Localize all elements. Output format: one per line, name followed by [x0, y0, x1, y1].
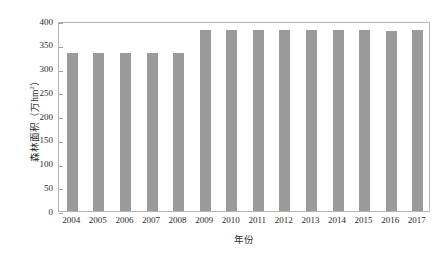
x-axis-tick-labels: 2004200520062007200820092010201120122013…: [58, 215, 430, 229]
y-axis-tick-label: 350: [29, 41, 53, 50]
y-axis-tick-label: 200: [29, 113, 53, 122]
y-axis-tick-label: 400: [29, 18, 53, 27]
y-axis-tick-mark: [59, 213, 63, 214]
y-axis-tick-mark: [59, 94, 63, 95]
y-axis-tick-labels: 400350300250200150100500: [29, 0, 53, 257]
bar: [67, 53, 78, 211]
bar: [386, 31, 397, 212]
x-axis-tick-mark: [391, 207, 392, 211]
bar: [333, 30, 344, 211]
bar: [120, 53, 131, 211]
y-axis-tick-label: 0: [29, 208, 53, 217]
y-axis-tick-mark: [59, 23, 63, 24]
y-axis-tick-mark: [59, 118, 63, 119]
x-axis-tick-mark: [99, 207, 100, 211]
x-axis-title: 年份: [58, 232, 430, 246]
y-axis-tick-mark: [59, 189, 63, 190]
bar: [359, 30, 370, 211]
bar: [173, 53, 184, 211]
x-axis-tick-mark: [125, 207, 126, 211]
y-axis-tick-label: 150: [29, 136, 53, 145]
x-axis-tick-mark: [205, 207, 206, 211]
y-axis-tick-label: 300: [29, 65, 53, 74]
bar: [412, 30, 423, 211]
y-axis-tick-label: 50: [29, 184, 53, 193]
bar: [200, 30, 211, 211]
y-axis-tick-label: 250: [29, 89, 53, 98]
x-axis-tick-mark: [179, 207, 180, 211]
x-axis-tick-mark: [72, 207, 73, 211]
bar: [93, 53, 104, 211]
x-axis-tick-mark: [152, 207, 153, 211]
bar-chart-figure: 森林面积（万hm2） 400350300250200150100500 2004…: [0, 0, 444, 257]
x-axis-tick-mark: [338, 207, 339, 211]
bar: [306, 30, 317, 211]
x-axis-tick-label: 2017: [397, 215, 437, 226]
y-axis-tick-mark: [59, 166, 63, 167]
x-axis-tick-mark: [365, 207, 366, 211]
x-axis-tick-mark: [311, 207, 312, 211]
x-axis-tick-mark: [258, 207, 259, 211]
bar: [279, 30, 290, 211]
bar: [253, 30, 264, 211]
y-axis-tick-mark: [59, 71, 63, 72]
y-axis-tick-label: 100: [29, 160, 53, 169]
bar: [226, 30, 237, 211]
plot-area: [58, 22, 430, 212]
y-axis-tick-mark: [59, 47, 63, 48]
x-axis-tick-mark: [418, 207, 419, 211]
x-axis-tick-mark: [232, 207, 233, 211]
y-axis-tick-mark: [59, 142, 63, 143]
bar: [147, 53, 158, 211]
x-axis-tick-mark: [285, 207, 286, 211]
